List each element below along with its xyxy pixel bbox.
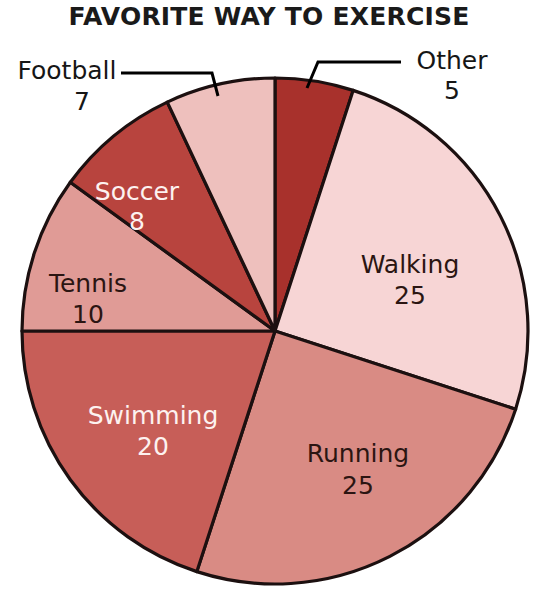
pie-slices-group — [22, 78, 528, 584]
slice-value-tennis: 10 — [72, 300, 104, 329]
slice-value-walking: 25 — [394, 281, 426, 310]
slice-value-soccer: 8 — [129, 207, 145, 236]
slice-label-football: Football — [18, 56, 117, 85]
slice-value-other: 5 — [444, 76, 460, 105]
slice-label-tennis: Tennis — [48, 269, 127, 298]
slice-value-swimming: 20 — [137, 432, 169, 461]
slice-label-swimming: Swimming — [88, 401, 219, 430]
slice-value-football: 7 — [74, 87, 90, 116]
slice-value-running: 25 — [342, 471, 374, 500]
slice-label-other: Other — [417, 46, 489, 75]
slice-label-soccer: Soccer — [95, 177, 180, 206]
slice-label-walking: Walking — [361, 250, 460, 279]
slice-label-running: Running — [307, 439, 409, 468]
pie-chart-figure: FAVORITE WAY TO EXERCISE Other5Walking25… — [0, 0, 538, 592]
pie-chart-svg: Other5Walking25Running25Swimming20Tennis… — [0, 0, 538, 592]
